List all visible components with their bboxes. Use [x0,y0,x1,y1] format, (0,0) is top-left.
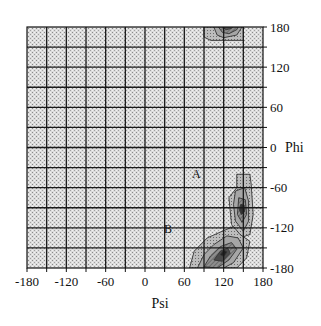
x-tick-label: -120 [54,274,78,289]
y-tick-label: 120 [270,60,290,75]
y-tick-label: -60 [270,180,287,195]
y-tick-label: -120 [270,220,294,235]
x-tick-label: 60 [178,274,191,289]
region-label-b: B [164,222,172,236]
x-tick-label: 120 [214,274,234,289]
region-label-a: A [192,167,201,181]
x-axis-title: Psi [151,296,168,311]
y-tick-label: 60 [270,100,283,115]
x-tick-label: 0 [142,274,149,289]
x-tick-label: 180 [253,274,273,289]
x-tick-label: -60 [97,274,114,289]
y-axis-title: Phi [285,140,304,155]
y-tick-label: -180 [270,261,294,276]
y-tick-label: 180 [270,20,290,35]
x-axis: -180-120-60060120180 [15,268,273,289]
y-tick-label: 0 [270,140,277,155]
x-tick-label: -180 [15,274,39,289]
ramachandran-plot: -180-120-60060120180 180120600-60-120-18… [0,0,321,326]
